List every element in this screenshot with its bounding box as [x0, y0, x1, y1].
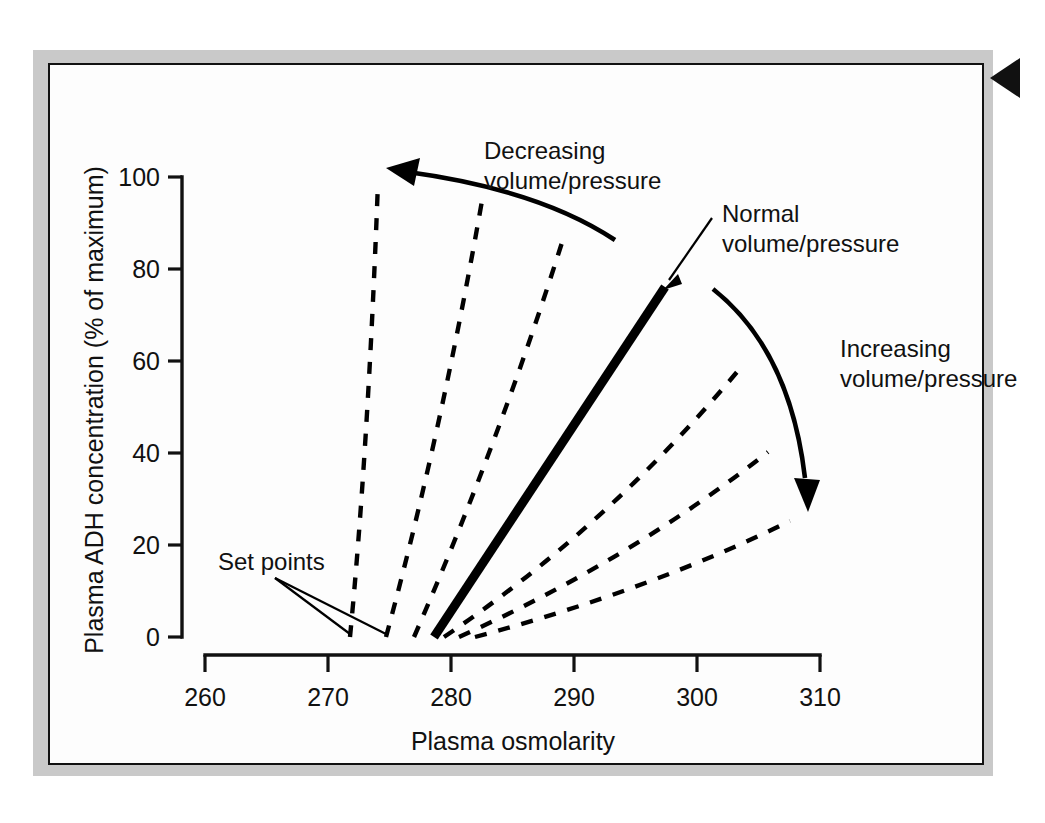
increasing-label-line2: volume/pressure	[840, 365, 1017, 392]
x-tick-label-270: 270	[307, 683, 349, 711]
set-points-leader-2	[275, 578, 386, 634]
curve-decreasing-moderate	[386, 195, 483, 637]
set-points-leader-1	[275, 578, 350, 634]
decreasing-label-line2: volume/pressure	[484, 167, 661, 194]
increasing-annotation: Increasing volume/pressure	[713, 289, 1017, 512]
curve-decreasing-mild	[414, 233, 565, 637]
normal-annotation: Normal volume/pressure	[663, 200, 899, 290]
y-tick-label-100: 100	[118, 163, 160, 191]
x-axis-title: Plasma osmolarity	[411, 727, 616, 755]
increasing-label-line1: Increasing	[840, 335, 951, 362]
increasing-arrow-curve	[713, 289, 805, 478]
x-tick-label-290: 290	[553, 683, 595, 711]
normal-pointer-line	[669, 218, 712, 280]
set-points-annotation: Set points	[218, 548, 386, 634]
normal-label-line1: Normal	[722, 200, 799, 227]
y-axis-title: Plasma ADH concentration (% of maximum)	[80, 166, 108, 654]
decreasing-arrow-head-icon	[386, 158, 420, 186]
y-tick-label-80: 80	[132, 255, 160, 283]
y-tick-label-20: 20	[132, 531, 160, 559]
y-axis: 100 80 60 40 20 0 Plasma ADH concentrati…	[80, 163, 182, 654]
increasing-arrow-head-icon	[794, 478, 820, 512]
y-tick-label-60: 60	[132, 347, 160, 375]
curve-increasing-moderate	[459, 452, 768, 637]
curve-decreasing-large	[350, 182, 378, 637]
y-tick-label-40: 40	[132, 439, 160, 467]
x-tick-label-260: 260	[184, 683, 226, 711]
x-tick-label-310: 310	[799, 683, 841, 711]
x-tick-label-300: 300	[676, 683, 718, 711]
x-tick-label-280: 280	[430, 683, 472, 711]
decreasing-annotation: Decreasing volume/pressure	[386, 137, 661, 240]
adh-osmolarity-chart: 100 80 60 40 20 0 Plasma ADH concentrati…	[0, 0, 1045, 823]
normal-label-line2: volume/pressure	[722, 230, 899, 257]
x-axis: 260 270 280 290 300 310 Plasma osmolarit…	[184, 655, 841, 755]
y-tick-label-0: 0	[146, 623, 160, 651]
figure-root: 100 80 60 40 20 0 Plasma ADH concentrati…	[0, 0, 1045, 823]
curve-normal-volume-pressure	[434, 287, 665, 637]
decreasing-label-line1: Decreasing	[484, 137, 605, 164]
set-points-label: Set points	[218, 548, 325, 575]
